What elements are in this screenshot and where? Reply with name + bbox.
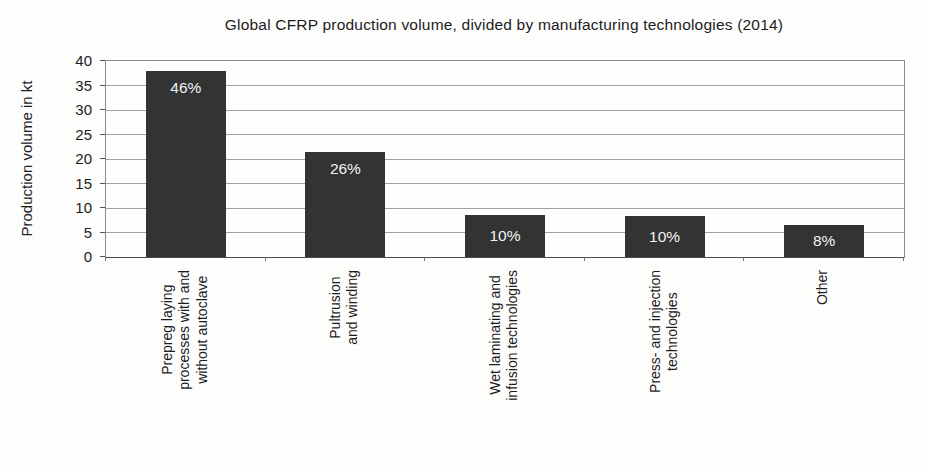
bar-2: 10%: [465, 215, 545, 257]
cfrp-bar-chart: Global CFRP production volume, divided b…: [0, 0, 928, 472]
y-tick-label-25: 25: [32, 127, 92, 142]
category-label-2: Wet laminating and infusion technologies: [487, 270, 522, 401]
bar-label-3: 10%: [649, 229, 680, 245]
y-tick-mark-5: [100, 232, 105, 233]
plot-area: 46%26%10%10%8%: [105, 60, 905, 258]
y-tick-label-40: 40: [32, 53, 92, 68]
category-label-3: Press- and injection technologies: [646, 270, 681, 393]
bar-3: 10%: [625, 216, 705, 257]
x-tick-mark-5: [903, 257, 904, 261]
bar-1: 26%: [305, 152, 385, 257]
x-axis-line: [106, 257, 904, 258]
x-tick-mark-0: [105, 257, 106, 261]
y-tick-label-15: 15: [32, 176, 92, 191]
y-tick-label-20: 20: [32, 151, 92, 166]
y-tick-label-30: 30: [32, 102, 92, 117]
y-tick-mark-10: [100, 207, 105, 208]
bar-label-1: 26%: [330, 161, 361, 177]
y-tick-mark-15: [100, 183, 105, 184]
x-tick-mark-2: [424, 257, 425, 261]
y-tick-mark-30: [100, 109, 105, 110]
bar-label-2: 10%: [489, 228, 520, 244]
y-tick-mark-25: [100, 134, 105, 135]
y-tick-mark-40: [100, 60, 105, 61]
y-tick-label-0: 0: [32, 249, 92, 264]
y-tick-label-10: 10: [32, 200, 92, 215]
y-tick-mark-35: [100, 85, 105, 86]
y-tick-label-5: 5: [32, 225, 92, 240]
category-label-1: Pultrusion and winding: [327, 270, 362, 345]
x-tick-mark-3: [584, 257, 585, 261]
x-tick-mark-1: [265, 257, 266, 261]
y-tick-label-35: 35: [32, 78, 92, 93]
category-label-4: Other: [814, 270, 832, 305]
bar-0: 46%: [146, 71, 226, 257]
bar-label-0: 46%: [170, 80, 201, 96]
y-tick-mark-20: [100, 158, 105, 159]
category-label-0: Prepreg laying processes with and withou…: [159, 270, 212, 390]
bar-4: 8%: [784, 225, 864, 257]
bar-label-4: 8%: [813, 233, 835, 249]
chart-title: Global CFRP production volume, divided b…: [105, 16, 903, 34]
x-tick-mark-4: [743, 257, 744, 261]
